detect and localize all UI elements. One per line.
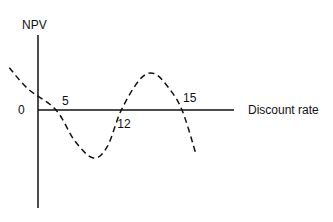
y-axis-label: NPV <box>22 18 47 32</box>
zero-label: 0 <box>18 103 25 117</box>
npv-chart: NPV Discount rate 0 51215 <box>0 0 333 222</box>
crossing-label-12: 12 <box>117 117 131 131</box>
x-axis-label: Discount rate <box>248 103 319 117</box>
crossing-label-15: 15 <box>183 91 197 105</box>
crossing-label-5: 5 <box>62 94 69 108</box>
